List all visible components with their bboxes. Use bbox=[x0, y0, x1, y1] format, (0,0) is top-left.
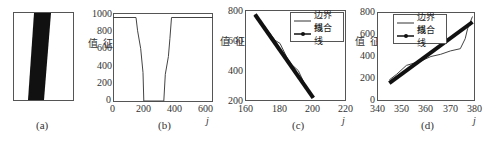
xtick-c-200: 200 bbox=[305, 104, 320, 114]
ytick-d-200: 200 bbox=[360, 73, 375, 83]
ytick-d-400: 400 bbox=[360, 51, 375, 61]
legend-c: 边界线 拟合线 bbox=[290, 12, 344, 42]
legend-dot-line-icon bbox=[397, 33, 414, 39]
ytick-b-200: 200 bbox=[97, 78, 112, 88]
legend-item-fit: 拟合线 bbox=[397, 29, 443, 42]
ytick-b-800: 800 bbox=[97, 26, 112, 36]
xtick-c-160: 160 bbox=[238, 104, 253, 114]
xtick-d-350: 350 bbox=[394, 104, 409, 114]
legend-item-fit: 拟合线 bbox=[294, 27, 340, 40]
legend-line-icon bbox=[397, 20, 414, 26]
xtick-d-380: 380 bbox=[467, 104, 482, 114]
ytick-d-800: 800 bbox=[360, 7, 375, 17]
xtick-c-180: 180 bbox=[272, 104, 287, 114]
ytick-b-400: 400 bbox=[97, 61, 112, 71]
legend-line-icon bbox=[294, 18, 311, 24]
x-axis-label-c: j bbox=[342, 115, 345, 126]
legend-label-fit: 拟合线 bbox=[314, 21, 340, 47]
xtick-b-400: 400 bbox=[167, 104, 182, 114]
ytick-c-600: 600 bbox=[228, 36, 243, 46]
ytick-b-1000: 1000 bbox=[92, 9, 112, 19]
caption-b: (b) bbox=[158, 119, 171, 131]
panel-a-image bbox=[13, 12, 74, 101]
ytick-b-600: 600 bbox=[97, 43, 112, 53]
caption-c: (c) bbox=[292, 119, 304, 131]
caption-a: (a) bbox=[36, 119, 48, 131]
ytick-d-600: 600 bbox=[360, 29, 375, 39]
xtick-c-220: 220 bbox=[338, 104, 353, 114]
xtick-d-360: 360 bbox=[418, 104, 433, 114]
caption-d: (d) bbox=[421, 119, 434, 131]
x-axis-label-d: j bbox=[473, 115, 476, 126]
legend-dot-line-icon bbox=[294, 31, 311, 37]
legend-label-fit: 拟合线 bbox=[417, 23, 443, 49]
ytick-c-800: 800 bbox=[228, 6, 243, 16]
xtick-b-0: 0 bbox=[110, 104, 115, 114]
ytick-c-400: 400 bbox=[228, 66, 243, 76]
xtick-d-370: 370 bbox=[443, 104, 458, 114]
xtick-d-340: 340 bbox=[370, 104, 385, 114]
x-axis-label-b: j bbox=[206, 115, 209, 126]
xtick-b-600: 600 bbox=[198, 104, 213, 114]
xtick-b-200: 200 bbox=[136, 104, 151, 114]
black-band-shape bbox=[14, 13, 73, 100]
line-series-b bbox=[113, 13, 213, 102]
legend-d: 边界线 拟合线 bbox=[393, 14, 447, 44]
